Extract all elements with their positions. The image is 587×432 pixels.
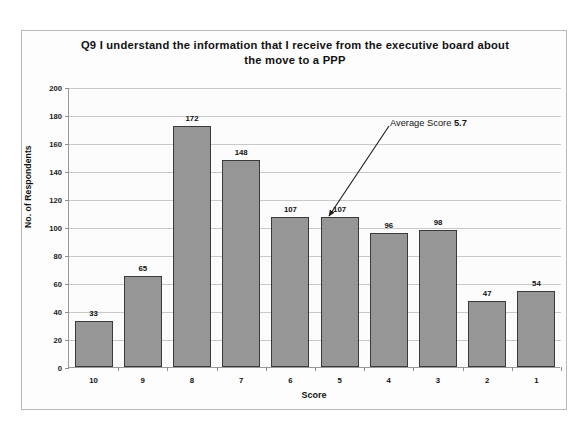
chart-title-line-2: the move to a PPP <box>50 53 540 68</box>
x-axis-tick <box>561 367 562 371</box>
x-axis-title: Score <box>68 390 560 400</box>
y-axis-tick-label: 20 <box>54 336 62 345</box>
gridline <box>69 172 561 173</box>
bar[interactable]: 107 <box>271 217 309 367</box>
x-axis-tick-label: 7 <box>217 376 266 385</box>
chart-title: Q9 I understand the information that I r… <box>50 38 540 68</box>
bar[interactable]: 107 <box>321 217 359 367</box>
x-axis-tick-label: 1 <box>512 376 561 385</box>
y-axis-tick-label: 100 <box>49 224 62 233</box>
gridline <box>69 228 561 229</box>
gridline <box>69 116 561 117</box>
bar-value-label: 107 <box>272 205 308 214</box>
bar-value-label: 65 <box>125 264 161 273</box>
average-score-label: Average Score <box>390 118 454 128</box>
x-axis-tick-label: 6 <box>266 376 315 385</box>
x-axis-tick <box>512 367 513 371</box>
y-axis-tick <box>65 172 69 173</box>
gridline <box>69 88 561 89</box>
x-axis-tick <box>463 367 464 371</box>
x-axis-tick-label: 2 <box>463 376 512 385</box>
gridline <box>69 200 561 201</box>
bar[interactable]: 65 <box>124 276 162 367</box>
y-axis-tick <box>65 312 69 313</box>
bar[interactable]: 172 <box>173 126 211 367</box>
gridline <box>69 256 561 257</box>
y-axis-tick-label: 60 <box>54 280 62 289</box>
bar-value-label: 33 <box>76 309 112 318</box>
bar-value-label: 148 <box>223 148 259 157</box>
bar[interactable]: 148 <box>222 160 260 367</box>
average-score-value: 5.7 <box>454 118 467 128</box>
y-axis-tick <box>65 368 69 369</box>
x-axis-tick-label: 4 <box>364 376 413 385</box>
x-axis-tick <box>118 367 119 371</box>
y-axis-tick-label: 140 <box>49 168 62 177</box>
y-axis-tick <box>65 256 69 257</box>
bar-value-label: 47 <box>469 289 505 298</box>
y-axis-title: No. of Respondents <box>23 145 33 228</box>
y-axis-tick <box>65 200 69 201</box>
chart-page: Q9 I understand the information that I r… <box>0 0 587 432</box>
y-axis-tick <box>65 340 69 341</box>
x-axis-tick-label: 8 <box>167 376 216 385</box>
bar-value-label: 172 <box>174 114 210 123</box>
x-axis-tick <box>413 367 414 371</box>
gridline <box>69 144 561 145</box>
y-axis-tick <box>65 284 69 285</box>
bar-value-label: 98 <box>420 218 456 227</box>
x-axis-tick <box>266 367 267 371</box>
y-axis-tick-label: 200 <box>49 84 62 93</box>
bar-value-label: 107 <box>322 205 358 214</box>
x-axis-tick-label: 9 <box>118 376 167 385</box>
y-axis-tick-label: 0 <box>58 364 62 373</box>
y-axis-tick-label: 180 <box>49 112 62 121</box>
chart-title-line-1: Q9 I understand the information that I r… <box>50 38 540 53</box>
y-axis-tick <box>65 228 69 229</box>
y-axis-tick-label: 120 <box>49 196 62 205</box>
y-axis-tick-label: 160 <box>49 140 62 149</box>
plot-area: 0204060801001201401601802003310659172814… <box>68 88 560 368</box>
y-axis-tick <box>65 116 69 117</box>
x-axis-tick <box>364 367 365 371</box>
x-axis-tick <box>167 367 168 371</box>
bar[interactable]: 33 <box>75 321 113 367</box>
y-axis-tick <box>65 88 69 89</box>
bar[interactable]: 47 <box>468 301 506 367</box>
bar-value-label: 54 <box>518 279 554 288</box>
bar[interactable]: 98 <box>419 230 457 367</box>
average-score-annotation: Average Score 5.7 <box>390 118 467 128</box>
y-axis-tick <box>65 144 69 145</box>
y-axis-tick-label: 40 <box>54 308 62 317</box>
y-axis-tick-label: 80 <box>54 252 62 261</box>
bar[interactable]: 54 <box>517 291 555 367</box>
bar[interactable]: 96 <box>370 233 408 367</box>
x-axis-tick-label: 5 <box>315 376 364 385</box>
x-axis-tick-label: 10 <box>69 376 118 385</box>
x-axis-tick <box>315 367 316 371</box>
x-axis-tick <box>217 367 218 371</box>
bar-value-label: 96 <box>371 221 407 230</box>
x-axis-tick-label: 3 <box>413 376 462 385</box>
